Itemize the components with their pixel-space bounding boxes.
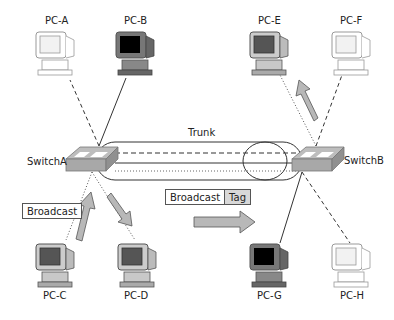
trunk-label: Trunk bbox=[188, 127, 215, 138]
vlan-trunk-diagram: PC-A PC-B PC-E PC-F PC-C PC-D PC-G PC-H … bbox=[0, 0, 394, 320]
arrow-down-pc-d-icon bbox=[107, 193, 132, 226]
arrow-up-pc-e-icon bbox=[296, 80, 318, 121]
trunk-tube bbox=[96, 142, 302, 180]
link-pc-b bbox=[99, 78, 126, 146]
pc-h-icon bbox=[332, 244, 370, 287]
link-pc-g bbox=[280, 172, 302, 243]
pc-h-label: PC-H bbox=[340, 290, 364, 301]
switch-a-label: SwitchA bbox=[27, 156, 67, 167]
switch-b-label: SwitchB bbox=[344, 155, 384, 166]
broadcast-frame-box: Broadcast bbox=[22, 203, 82, 219]
switch-b-icon bbox=[292, 147, 344, 171]
pc-g-label: PC-G bbox=[257, 290, 282, 301]
link-pc-a bbox=[70, 80, 99, 146]
arrow-right-trunk-icon bbox=[194, 211, 255, 233]
pc-e-label: PC-E bbox=[258, 15, 281, 26]
pc-c-label: PC-C bbox=[43, 290, 67, 301]
pc-f-icon bbox=[332, 32, 370, 75]
pc-f-label: PC-F bbox=[340, 15, 362, 26]
pc-c-icon bbox=[36, 244, 74, 287]
tagged-frame-tag: Tag bbox=[225, 189, 251, 205]
link-pc-h bbox=[302, 172, 350, 243]
pc-b-icon bbox=[116, 32, 154, 75]
pc-g-icon bbox=[250, 244, 288, 287]
tagged-frame: Broadcast Tag bbox=[165, 189, 251, 205]
pc-b-label: PC-B bbox=[124, 15, 147, 26]
pc-a-label: PC-A bbox=[45, 15, 68, 26]
pc-d-label: PC-D bbox=[124, 290, 148, 301]
tagged-frame-payload: Broadcast bbox=[165, 189, 225, 205]
link-pc-f bbox=[316, 75, 342, 146]
pc-a-icon bbox=[36, 32, 74, 75]
pc-e-icon bbox=[250, 32, 288, 75]
pc-d-icon bbox=[118, 244, 156, 287]
switch-a-icon bbox=[66, 147, 118, 171]
